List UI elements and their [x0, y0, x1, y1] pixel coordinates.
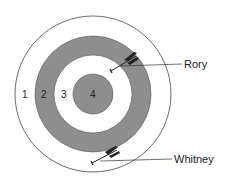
ring-label-1: 1	[22, 89, 28, 100]
ring-label-4: 4	[90, 89, 96, 100]
label-rory: Rory	[184, 58, 208, 70]
ring-label-2: 2	[41, 89, 47, 100]
label-whitney: Whitney	[174, 153, 214, 165]
target-diagram: 1 2 3 4 Rory Whitney	[0, 0, 226, 186]
ring-label-3: 3	[61, 89, 67, 100]
